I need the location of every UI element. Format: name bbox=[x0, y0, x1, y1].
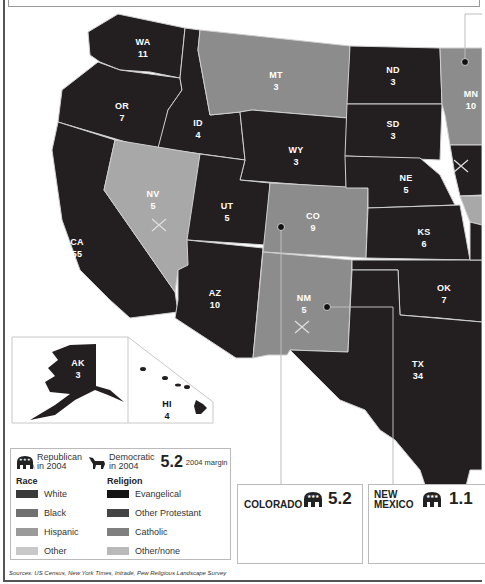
label-hi: HI4 bbox=[162, 398, 171, 422]
legend-race-hispanic: Hispanic bbox=[16, 527, 79, 537]
legend-margin-label: 2004 margin bbox=[186, 458, 228, 467]
colorado-margin: 5.2 bbox=[328, 489, 352, 509]
legend-religion-evangelical: Evangelical bbox=[107, 489, 181, 499]
label-mn: MN10 bbox=[464, 88, 478, 112]
legend-religion-other-protestant: Other Protestant bbox=[107, 508, 201, 518]
legend-religion-catholic: Catholic bbox=[107, 527, 168, 537]
nm-callout-dot bbox=[324, 304, 331, 311]
label-nd: ND3 bbox=[386, 64, 399, 88]
new-mexico-box: NEWMEXICO ★★★ 1.1 bbox=[368, 484, 485, 564]
donkey-icon bbox=[87, 454, 107, 470]
race-heading: Race bbox=[16, 476, 38, 486]
label-nm: NM5 bbox=[297, 292, 311, 316]
legend: ★★★ Republicanin 2004 Democraticin 2004 … bbox=[10, 448, 231, 560]
svg-text:★★★: ★★★ bbox=[426, 493, 439, 499]
label-wa: WA11 bbox=[136, 36, 151, 60]
label-ca: CA55 bbox=[70, 236, 83, 260]
new-mexico-title: NEWMEXICO bbox=[374, 490, 413, 510]
new-mexico-margin: 1.1 bbox=[449, 489, 473, 509]
label-az: AZ10 bbox=[209, 287, 221, 311]
label-mt: MT3 bbox=[269, 69, 282, 93]
label-ut: UT5 bbox=[221, 200, 233, 224]
inset-box bbox=[12, 337, 213, 423]
label-or: OR7 bbox=[115, 100, 129, 124]
elephant-icon: ★★★ bbox=[302, 490, 324, 508]
label-id: ID4 bbox=[193, 117, 202, 141]
label-nv: NV5 bbox=[147, 188, 160, 212]
legend-race-other: Other bbox=[16, 546, 67, 556]
label-ne: NE5 bbox=[400, 172, 413, 196]
sources-note: Sources: US Census, New York Times, Intr… bbox=[9, 570, 226, 576]
legend-race-white: White bbox=[16, 489, 67, 499]
label-ak: AK3 bbox=[71, 357, 84, 381]
label-wy: WY3 bbox=[289, 144, 304, 168]
svg-text:★★★: ★★★ bbox=[307, 493, 320, 499]
legend-race-black: Black bbox=[16, 508, 66, 518]
elephant-icon: ★★★ bbox=[15, 454, 35, 470]
colorado-box: COLORADO ★★★ 5.2 bbox=[237, 484, 363, 564]
state-east-edge bbox=[470, 222, 482, 260]
label-ks: KS6 bbox=[418, 226, 431, 250]
svg-text:★★★: ★★★ bbox=[19, 457, 31, 462]
co-callout-dot bbox=[278, 224, 285, 231]
colorado-title: COLORADO bbox=[244, 500, 302, 510]
label-co: CO9 bbox=[306, 210, 320, 234]
elephant-icon: ★★★ bbox=[421, 490, 443, 508]
label-ok: OK7 bbox=[437, 282, 451, 306]
legend-religion-other-none: Other/none bbox=[107, 546, 180, 556]
label-tx: TX34 bbox=[412, 358, 424, 382]
label-sd: SD3 bbox=[387, 118, 400, 142]
mn-callout-dot bbox=[462, 59, 469, 66]
legend-margin-value: 5.2 bbox=[161, 453, 183, 471]
religion-heading: Religion bbox=[107, 476, 143, 486]
